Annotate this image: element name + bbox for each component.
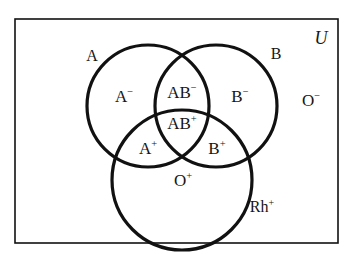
region-a-negative-sign: − <box>127 86 133 97</box>
region-b-positive: B+ <box>208 140 225 157</box>
circle-label-a-text: A <box>86 47 98 64</box>
region-a-positive-sign: + <box>151 138 157 149</box>
circle-label-a: A <box>86 48 98 64</box>
venn-diagram-figure: ABRh+A−AB−B−O−AB+A+B+O+U <box>0 0 352 254</box>
region-a-negative: A− <box>115 88 133 105</box>
region-b-negative-text: B <box>231 87 242 106</box>
circle-label-b-text: B <box>271 45 282 62</box>
region-ab-positive: AB+ <box>167 115 197 132</box>
circle-label-rh-sign: + <box>269 197 275 208</box>
region-o-negative-text: O <box>302 91 314 110</box>
region-a-negative-text: A <box>115 87 127 106</box>
circle-label-rh: Rh+ <box>250 199 274 215</box>
region-o-positive: O+ <box>174 172 192 189</box>
region-o-negative-sign: − <box>314 90 320 101</box>
region-b-positive-text: B <box>208 139 219 158</box>
region-o-positive-text: O <box>174 171 186 190</box>
region-ab-positive-sign: + <box>191 113 197 124</box>
circle-label-rh-text: Rh <box>250 198 269 215</box>
region-a-positive-text: A <box>139 139 151 158</box>
region-ab-negative-sign: − <box>191 82 197 93</box>
region-o-positive-sign: + <box>186 170 192 181</box>
universe-label-text: U <box>315 28 328 48</box>
region-b-positive-sign: + <box>220 138 226 149</box>
circle-label-b: B <box>271 46 282 62</box>
region-a-positive: A+ <box>139 140 157 157</box>
universe-label: U <box>315 29 328 47</box>
region-ab-positive-text: AB <box>167 114 191 133</box>
region-ab-negative-text: AB <box>167 83 191 102</box>
region-o-negative: O− <box>302 92 320 109</box>
region-ab-negative: AB− <box>167 84 197 101</box>
region-b-negative-sign: − <box>243 86 249 97</box>
region-b-negative: B− <box>231 88 248 105</box>
